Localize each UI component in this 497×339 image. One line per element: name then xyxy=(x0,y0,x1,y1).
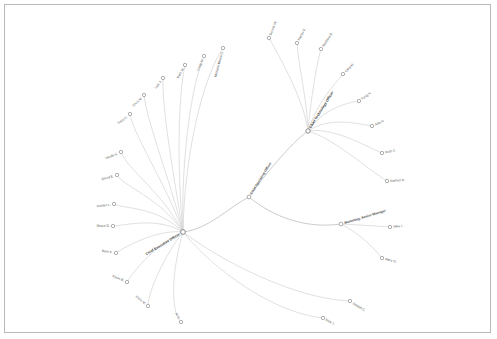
node-label: Mary G. xyxy=(385,257,397,264)
edge-layer xyxy=(113,38,390,322)
graph-node[interactable]: Chief Operating Officer xyxy=(247,161,273,199)
graph-edge xyxy=(183,232,323,318)
node-label: Nicole C. xyxy=(105,152,119,161)
node-label: Marketing, Senior Manager xyxy=(344,208,387,225)
node-circle[interactable] xyxy=(295,41,298,44)
node-circle[interactable] xyxy=(321,316,324,319)
node-circle[interactable] xyxy=(146,304,149,307)
graph-edge xyxy=(269,38,308,131)
node-label: Chris M. xyxy=(135,295,147,306)
graph-node[interactable]: Kevin B. xyxy=(112,274,129,284)
graph-node[interactable]: Grace D. xyxy=(96,224,114,228)
node-circle[interactable] xyxy=(128,112,131,115)
node-label: Beth K. xyxy=(102,249,113,255)
network-graph-svg[interactable]: Chief Executive OfficerChief Technology … xyxy=(5,5,492,334)
graph-edge xyxy=(183,197,249,232)
graph-node[interactable]: Kristen L. xyxy=(97,202,116,208)
graph-node[interactable]: Ada H. xyxy=(370,119,385,128)
node-circle[interactable] xyxy=(161,76,164,79)
graph-node[interactable]: Mary G. xyxy=(380,256,397,263)
node-circle[interactable] xyxy=(115,173,118,176)
node-circle[interactable] xyxy=(380,151,383,154)
graph-node[interactable]: Marketing, Senior Manager xyxy=(339,208,387,226)
node-circle[interactable] xyxy=(380,256,383,259)
graph-node[interactable]: Joseph C. xyxy=(348,299,366,312)
graph-edge xyxy=(308,131,387,181)
node-label: Chief Operating Officer xyxy=(249,161,273,195)
graph-node[interactable]: Al S. xyxy=(174,312,182,324)
graph-node[interactable]: Chris M. xyxy=(132,93,146,107)
node-label: Al S. xyxy=(174,312,181,320)
graph-node[interactable]: Tracy C. xyxy=(117,112,132,125)
node-circle[interactable] xyxy=(119,150,122,153)
graph-node[interactable]: Cara M. xyxy=(341,62,355,76)
graph-edge xyxy=(308,130,382,153)
node-label: Mike I. xyxy=(393,224,403,229)
node-circle[interactable] xyxy=(179,320,182,323)
graph-node[interactable]: Beth K. xyxy=(102,249,118,255)
node-circle[interactable] xyxy=(370,124,373,127)
node-circle[interactable] xyxy=(319,47,322,50)
node-label: Ruth C. xyxy=(385,148,397,154)
graph-node[interactable]: David E. xyxy=(101,173,118,181)
node-circle[interactable] xyxy=(181,230,186,235)
node-circle[interactable] xyxy=(247,195,251,199)
graph-node[interactable]: Rick J. xyxy=(321,316,335,326)
graph-edge xyxy=(174,232,183,322)
node-label: Dennis W. xyxy=(269,20,278,36)
node-label: Rick J. xyxy=(325,318,336,326)
graph-node[interactable]: Beth W. xyxy=(176,63,187,79)
node-circle[interactable] xyxy=(341,72,344,75)
graph-node[interactable]: Hector E. xyxy=(295,27,307,45)
graph-node[interactable]: Nicole C. xyxy=(105,150,123,160)
node-label: Hector E. xyxy=(297,27,307,41)
graph-node[interactable]: Nathan K. xyxy=(385,178,405,183)
graph-node[interactable]: Ruth C. xyxy=(380,148,396,154)
node-label: David E. xyxy=(101,174,114,181)
node-circle[interactable] xyxy=(125,280,128,283)
node-circle[interactable] xyxy=(183,63,186,66)
graph-node[interactable]: Mike I. xyxy=(388,224,403,229)
graph-edge xyxy=(113,223,183,232)
node-layer: Chief Executive OfficerChief Technology … xyxy=(96,20,405,326)
graph-edge xyxy=(183,232,350,301)
graph-edge xyxy=(308,122,372,131)
node-circle[interactable] xyxy=(339,222,343,226)
graph-edge xyxy=(249,197,341,225)
node-label: Ada H. xyxy=(374,119,385,127)
graph-node[interactable]: Matthew R. xyxy=(319,31,334,50)
node-circle[interactable] xyxy=(112,202,115,205)
node-circle[interactable] xyxy=(348,299,351,302)
graph-node[interactable]: Chris M. xyxy=(135,295,150,308)
node-label: Chris M. xyxy=(132,96,144,108)
graph-node[interactable]: Feng K. xyxy=(357,91,372,103)
node-circle[interactable] xyxy=(114,251,117,254)
diagram-canvas[interactable]: Chief Executive OfficerChief Technology … xyxy=(5,5,490,332)
graph-edge xyxy=(183,56,204,232)
node-label: Nathan K. xyxy=(390,178,405,183)
node-label: Chief Executive Officer xyxy=(145,232,181,256)
node-label: Chief Technology Officer xyxy=(308,90,334,129)
node-circle[interactable] xyxy=(221,46,224,49)
node-circle[interactable] xyxy=(385,179,388,182)
node-label: Cara M. xyxy=(344,62,355,73)
graph-edge xyxy=(341,224,390,227)
node-circle[interactable] xyxy=(357,99,360,102)
node-label: Grace D. xyxy=(96,224,109,228)
node-label: Luis J. xyxy=(154,79,163,89)
node-circle[interactable] xyxy=(111,224,114,227)
node-circle[interactable] xyxy=(388,225,391,228)
node-circle[interactable] xyxy=(306,129,310,133)
node-label: Tracy C. xyxy=(117,115,129,126)
graph-edge xyxy=(341,224,382,258)
graph-node[interactable]: Craig M. xyxy=(196,54,206,71)
node-label: Matthew R. xyxy=(321,31,334,47)
node-label: Feng K. xyxy=(361,91,373,101)
graph-edge xyxy=(249,131,308,197)
graph-edge xyxy=(163,78,183,232)
graph-node[interactable]: Dennis W. xyxy=(267,20,278,40)
graph-edge xyxy=(297,43,308,131)
node-circle[interactable] xyxy=(142,93,145,96)
node-circle[interactable] xyxy=(267,36,270,39)
node-circle[interactable] xyxy=(202,54,205,57)
